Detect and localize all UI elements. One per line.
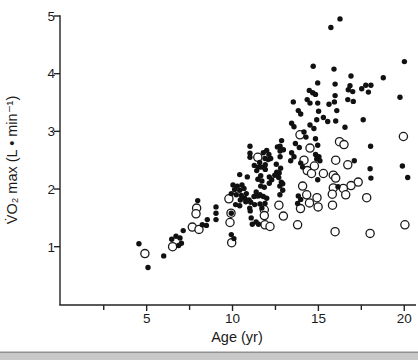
data-point-filled	[254, 168, 259, 173]
axes	[54, 15, 416, 311]
data-point-open	[363, 194, 371, 202]
data-point-filled	[332, 93, 337, 98]
page-edge-band	[0, 354, 418, 360]
data-point-open	[347, 182, 355, 190]
data-point-filled	[266, 157, 271, 162]
data-point-filled	[315, 177, 320, 182]
data-point-filled	[301, 129, 306, 134]
x-tick-label: 5	[143, 311, 151, 326]
data-point-filled	[313, 136, 318, 141]
data-point-open	[332, 174, 340, 182]
data-point-filled	[315, 143, 320, 148]
data-point-filled	[266, 152, 271, 157]
data-point-filled	[342, 125, 347, 130]
y-tick-label: 5	[47, 9, 55, 24]
data-point-filled	[300, 164, 305, 169]
y-tick-label: 2	[47, 182, 55, 197]
data-point-filled	[402, 59, 407, 64]
data-point-open	[275, 201, 283, 209]
data-point-filled	[405, 175, 410, 180]
data-point-filled	[249, 215, 254, 220]
data-point-filled	[314, 117, 319, 122]
x-tick-label: 10	[225, 311, 240, 326]
data-point-open	[279, 212, 287, 220]
data-point-filled	[345, 97, 350, 102]
data-point-filled	[316, 109, 321, 114]
data-point-open	[260, 212, 268, 220]
data-point-open	[344, 161, 352, 169]
data-point-filled	[241, 186, 246, 191]
data-point-filled	[335, 184, 340, 189]
data-point-filled	[291, 124, 296, 129]
data-point-filled	[237, 203, 242, 208]
data-point-filled	[351, 99, 356, 104]
data-point-filled	[333, 118, 338, 123]
data-point-filled	[176, 243, 181, 248]
data-point-filled	[326, 102, 331, 107]
data-point-filled	[231, 236, 236, 241]
data-point-filled	[297, 145, 302, 150]
data-point-open	[328, 201, 336, 209]
data-point-filled	[244, 191, 249, 196]
data-point-filled	[367, 166, 372, 171]
data-point-filled	[277, 192, 282, 197]
data-point-filled	[350, 89, 355, 94]
data-point-filled	[262, 201, 267, 206]
data-point-filled	[298, 111, 303, 116]
data-point-filled	[352, 158, 357, 163]
data-point-filled	[248, 208, 253, 213]
data-point-open	[340, 141, 348, 149]
data-point-filled	[229, 191, 234, 196]
data-point-open	[313, 194, 321, 202]
data-point-filled	[177, 235, 182, 240]
data-point-filled	[366, 89, 371, 94]
data-point-filled	[261, 150, 266, 155]
data-point-filled	[381, 75, 386, 80]
data-point-open	[331, 228, 339, 236]
data-point-filled	[397, 95, 402, 100]
data-point-open	[328, 190, 336, 198]
data-point-filled	[303, 134, 308, 139]
figure-page: Age (yr) V̇O₂ max (L • min⁻¹) 1234551015…	[0, 0, 418, 360]
y-axis-title: V̇O₂ max (L • min⁻¹)	[4, 96, 20, 225]
data-point-filled	[213, 204, 218, 209]
data-point-filled	[280, 181, 285, 186]
data-point-filled	[311, 63, 316, 68]
data-point-filled	[272, 173, 277, 178]
data-point-open	[266, 222, 274, 230]
data-point-filled	[145, 265, 150, 270]
data-point-filled	[250, 222, 255, 227]
data-point-open	[294, 221, 302, 229]
x-tick-label: 15	[311, 311, 326, 326]
data-point-filled	[237, 172, 242, 177]
data-point-filled	[238, 197, 243, 202]
data-point-open	[226, 218, 234, 226]
page-edge-line	[0, 352, 418, 354]
data-point-open	[366, 229, 374, 237]
data-point-filled	[325, 119, 330, 124]
data-point-filled	[280, 188, 285, 193]
data-point-filled	[311, 126, 316, 131]
data-point-filled	[337, 16, 342, 21]
data-point-filled	[274, 162, 279, 167]
data-point-filled	[347, 83, 352, 88]
data-point-filled	[348, 73, 353, 78]
data-point-filled	[243, 199, 248, 204]
data-point-filled	[267, 181, 272, 186]
data-point-filled	[257, 160, 262, 165]
data-point-open	[141, 250, 149, 258]
data-point-filled	[204, 223, 209, 228]
data-point-filled	[368, 175, 373, 180]
data-point-filled	[315, 80, 320, 85]
data-point-filled	[295, 201, 300, 206]
data-point-filled	[136, 241, 141, 246]
data-point-filled	[278, 166, 283, 171]
data-point-filled	[328, 25, 333, 30]
data-point-filled	[332, 81, 337, 86]
data-point-filled	[332, 99, 337, 104]
data-point-filled	[279, 138, 284, 143]
data-point-filled	[361, 117, 366, 122]
data-point-filled	[247, 155, 252, 160]
y-tick-label: 4	[47, 66, 55, 81]
data-point-filled	[252, 202, 257, 207]
